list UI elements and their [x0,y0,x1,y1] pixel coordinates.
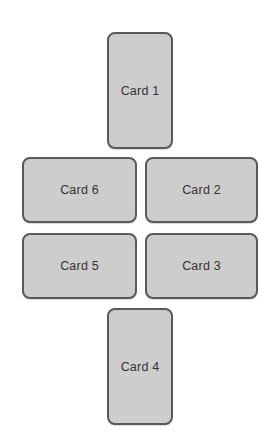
card-layout-diagram: Card 1 Card 6 Card 2 Card 5 Card 3 Card … [0,0,279,447]
card-2-label: Card 2 [182,183,221,197]
card-5-label: Card 5 [60,259,99,273]
card-4: Card 4 [107,308,173,425]
card-2: Card 2 [145,157,258,223]
card-3: Card 3 [145,233,258,299]
card-6-label: Card 6 [60,183,99,197]
card-3-label: Card 3 [182,259,221,273]
card-1: Card 1 [107,32,173,149]
card-5: Card 5 [22,233,137,299]
card-6: Card 6 [22,157,137,223]
card-4-label: Card 4 [121,360,160,374]
card-1-label: Card 1 [121,84,160,98]
